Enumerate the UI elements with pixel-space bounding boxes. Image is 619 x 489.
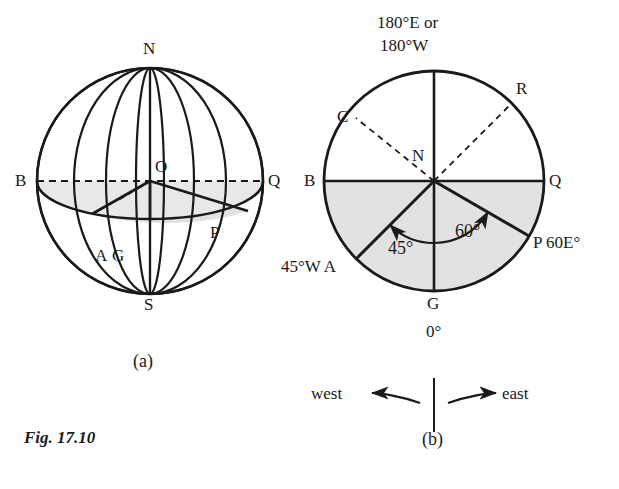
panel-b-angle-label-45: 45°: [388, 239, 413, 257]
panel-b-top-label-line1: 180°E or: [377, 14, 438, 31]
panel-a-label-O: O: [155, 158, 167, 175]
panel-a-label-P: P: [210, 224, 219, 241]
panel-b-plan: [324, 71, 544, 432]
panel-b-angle-label-60: 60°: [455, 222, 480, 240]
panel-a-label-G: G: [112, 247, 124, 264]
panel-b-label-R: R: [516, 80, 527, 97]
figure-vector-graphics: [0, 0, 619, 489]
figure-caption: Fig. 17.10: [24, 429, 95, 446]
panel-b-compass-arrow-west: [372, 393, 420, 403]
panel-a-label-Q: Q: [268, 172, 280, 189]
panel-b-compass-arrow-east: [448, 393, 496, 403]
panel-a-label-B: B: [15, 172, 26, 189]
panel-a-label-N: N: [143, 40, 155, 57]
panel-a-label-S: S: [144, 296, 153, 313]
panel-b-sublabel: (b): [422, 430, 443, 448]
panel-b-label-N: N: [412, 147, 424, 164]
panel-b-compass-east-label: east: [502, 385, 528, 402]
panel-b-longitude-G: 0°: [426, 323, 441, 340]
panel-b-radius-nr: [434, 103, 512, 181]
panel-b-label-C: C: [337, 108, 348, 125]
panel-b-compass-west-label: west: [311, 385, 342, 402]
panel-b-longitude-P: P 60E°: [533, 234, 580, 251]
panel-b-label-G: G: [427, 295, 439, 312]
figure-canvas: N S O B Q A G P (a) 180°E or 180°W N B Q…: [0, 0, 619, 489]
panel-b-longitude-A: 45°W A: [281, 258, 336, 275]
panel-b-top-label-line2: 180°W: [380, 37, 428, 54]
panel-a-sublabel: (a): [133, 352, 153, 370]
panel-a-globe: [37, 68, 263, 294]
panel-a-label-A: A: [95, 247, 107, 264]
panel-b-label-B: B: [304, 172, 315, 189]
panel-b-label-Q: Q: [549, 172, 561, 189]
